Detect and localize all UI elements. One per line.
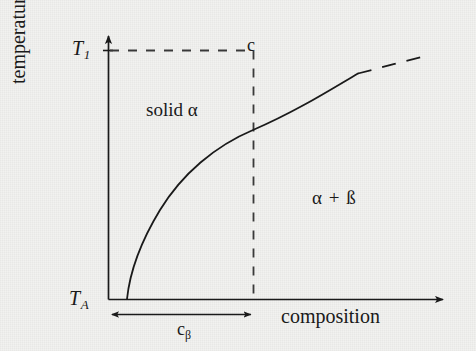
c-beta-base: c bbox=[177, 319, 185, 339]
measure-label-c-beta: cβ bbox=[177, 320, 191, 338]
y-tick-label-ta: TA bbox=[69, 288, 88, 308]
solvus-curve-dashed-extension bbox=[358, 55, 430, 74]
y-axis-title: temperature bbox=[8, 62, 28, 84]
t1-base: T bbox=[72, 37, 83, 59]
y-tick-label-t1: T1 bbox=[72, 38, 90, 58]
region-label-solid-alpha: solid α bbox=[146, 100, 198, 119]
ta-base: T bbox=[69, 287, 80, 309]
c-beta-subscript: β bbox=[185, 328, 191, 342]
phase-diagram-figure: temperature composition T1 TA solid α α … bbox=[0, 0, 476, 351]
x-axis-title: composition bbox=[281, 306, 380, 326]
t1-subscript: 1 bbox=[84, 47, 91, 62]
composition-label-c: c bbox=[247, 36, 255, 54]
ta-subscript: A bbox=[81, 297, 89, 312]
region-label-alpha-plus-beta: α + ß bbox=[312, 188, 357, 207]
